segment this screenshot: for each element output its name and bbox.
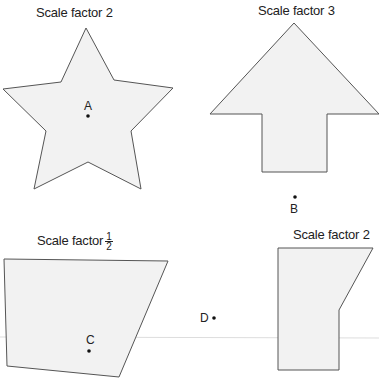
label-d: D (200, 311, 209, 325)
arrow-shape (210, 23, 379, 172)
centre-point-d (212, 316, 216, 320)
quadrilateral-scale-label: Scale factor12 (37, 232, 113, 251)
pentagon-shape (278, 248, 373, 370)
centre-point-c (87, 349, 91, 353)
label-b: B (290, 202, 298, 216)
label-a: A (84, 99, 92, 113)
centre-point-b (293, 195, 297, 199)
arrow-scale-label: Scale factor 3 (258, 3, 335, 18)
pentagon-scale-label: Scale factor 2 (293, 227, 370, 242)
quadrilateral-shape (4, 259, 168, 377)
centre-point-a (86, 114, 90, 118)
diagram-canvas (0, 0, 379, 384)
scale-label-prefix: Scale factor (37, 233, 103, 248)
label-c: C (86, 333, 95, 347)
fraction: 12 (105, 232, 112, 251)
star-scale-label: Scale factor 2 (36, 5, 113, 20)
fraction-denominator: 2 (106, 242, 111, 251)
